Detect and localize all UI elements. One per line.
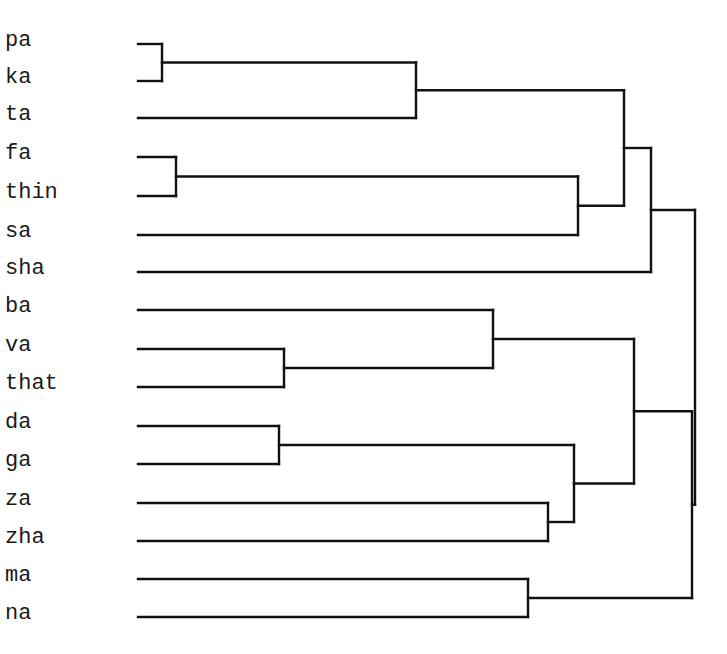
leaf-label-sha: sha (5, 258, 45, 280)
leaf-label-ta: ta (5, 104, 31, 126)
leaf-label-ka: ka (5, 67, 31, 89)
leaf-label-fa: fa (5, 143, 31, 165)
leaf-label-da: da (5, 412, 31, 434)
leaf-label-ma: ma (5, 565, 31, 587)
leaf-label-pa: pa (5, 30, 31, 52)
leaf-label-ba: ba (5, 296, 31, 318)
leaf-label-ga: ga (5, 450, 31, 472)
leaf-label-na: na (5, 603, 31, 625)
leaf-label-zha: zha (5, 527, 45, 549)
leaf-label-that: that (5, 373, 58, 395)
dendrogram (0, 0, 727, 654)
leaf-label-va: va (5, 335, 31, 357)
leaf-label-za: za (5, 489, 31, 511)
leaf-label-sa: sa (5, 221, 31, 243)
leaf-label-thin: thin (5, 182, 58, 204)
